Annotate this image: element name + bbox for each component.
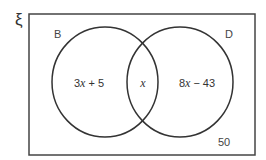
set-d-only-expression: 8x − 43	[179, 77, 215, 89]
intersection-expression: x	[140, 77, 145, 89]
set-d-label: D	[225, 29, 233, 40]
set-b-only-expression: 3x + 5	[74, 77, 104, 89]
set-b-label: B	[54, 29, 61, 40]
universal-set-symbol: ξ	[15, 11, 23, 28]
outside-value: 50	[218, 137, 230, 148]
